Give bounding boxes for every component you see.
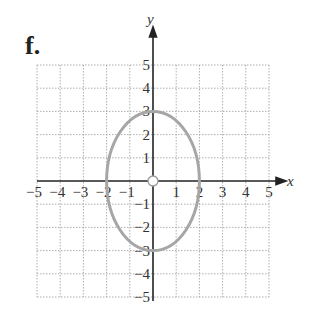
x-tick-label: −3 xyxy=(72,184,88,200)
y-tick-label: 4 xyxy=(143,80,151,96)
x-tick-label: 5 xyxy=(265,184,273,200)
y-tick-label: 5 xyxy=(143,57,151,73)
y-tick-label: −4 xyxy=(134,266,150,282)
ellipse-graph: x y −5−4−3−2−11234554321−1−2−3−4−5 xyxy=(0,0,314,325)
y-tick-label: −5 xyxy=(134,289,150,305)
y-axis-arrow-icon xyxy=(150,27,157,37)
x-tick-label: −1 xyxy=(119,184,135,200)
y-tick-label: −1 xyxy=(134,196,150,212)
y-axis-label: y xyxy=(145,11,154,27)
x-tick-label: 1 xyxy=(172,184,180,200)
y-tick-label: 2 xyxy=(143,127,151,143)
x-axis-label: x xyxy=(286,173,294,189)
x-tick-label: −5 xyxy=(26,184,42,200)
x-tick-label: 3 xyxy=(219,184,227,200)
open-center-point xyxy=(148,176,158,186)
x-tick-label: −4 xyxy=(49,184,65,200)
x-tick-label: 4 xyxy=(242,184,250,200)
y-tick-label: −2 xyxy=(134,219,150,235)
y-tick-label: 1 xyxy=(143,150,151,166)
axes xyxy=(37,27,286,301)
x-axis-arrow-icon xyxy=(276,178,286,185)
